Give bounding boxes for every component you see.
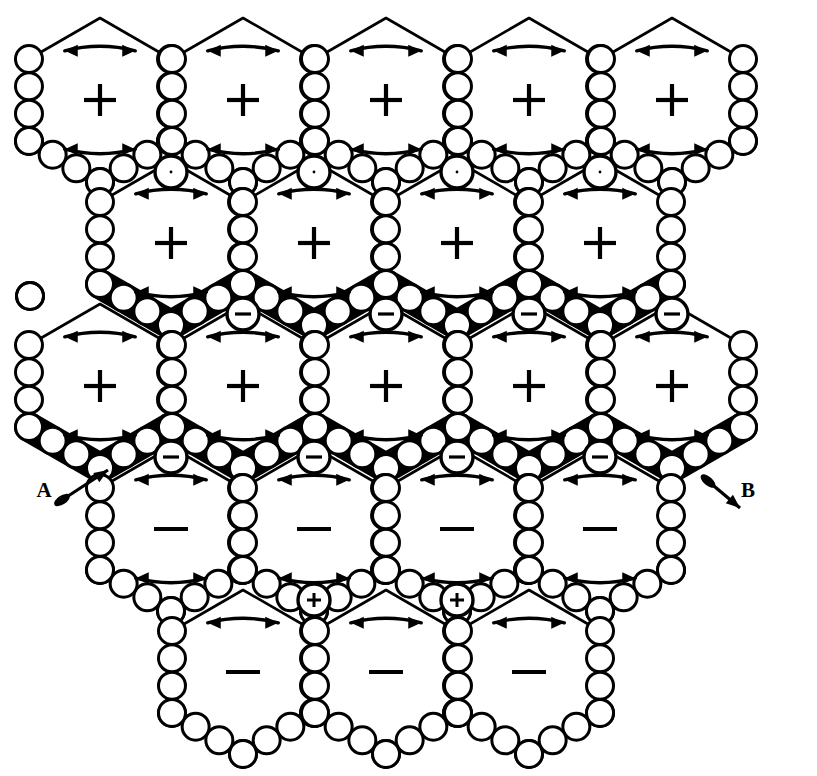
wall-circle — [587, 128, 614, 155]
wall-circle — [301, 332, 328, 359]
junction-node — [441, 584, 473, 616]
wall-circle — [15, 386, 42, 413]
wall-circle — [158, 128, 185, 155]
junction-node — [298, 441, 330, 473]
wall-circle — [587, 73, 614, 100]
wall-circle — [158, 73, 185, 100]
wall-circle — [658, 475, 685, 502]
wall-circle — [229, 216, 256, 243]
wall-circle — [372, 502, 399, 529]
wall-circle — [158, 414, 185, 441]
wall-circle — [444, 672, 471, 699]
wall-circle — [158, 100, 185, 127]
wall-circle — [372, 557, 399, 584]
wall-circle — [229, 557, 256, 584]
wall-circle — [158, 700, 185, 727]
callout-label-a: A — [36, 478, 52, 502]
wall-circle — [301, 414, 328, 441]
figure-canvas: AB — [0, 0, 817, 776]
wall-circle — [515, 216, 542, 243]
wall-circle — [86, 243, 113, 270]
wall-circle — [587, 46, 614, 73]
wall-circle — [444, 414, 471, 441]
wall-circle — [658, 502, 685, 529]
wall-circle — [372, 189, 399, 216]
background — [0, 0, 817, 776]
wall-circle — [658, 189, 685, 216]
wall-circle — [587, 386, 614, 413]
wall-circle — [658, 529, 685, 556]
wall-circle — [587, 359, 614, 386]
wall-circle — [229, 243, 256, 270]
wall-circle — [444, 386, 471, 413]
wall-circle — [587, 618, 614, 645]
wall-circle — [587, 414, 614, 441]
wall-circle — [86, 557, 113, 584]
wall-circle — [730, 359, 757, 386]
wall-circle — [444, 332, 471, 359]
wall-circle — [229, 271, 256, 298]
wall-circle — [587, 672, 614, 699]
wall-circle — [372, 475, 399, 502]
wall-circle — [158, 645, 185, 672]
wall-circle — [301, 128, 328, 155]
wall-circle — [86, 271, 113, 298]
wall-circle — [730, 46, 757, 73]
wall-circle — [301, 672, 328, 699]
junction-node — [298, 156, 330, 188]
wall-circle — [15, 46, 42, 73]
junction-node — [656, 298, 688, 330]
wall-circle — [301, 46, 328, 73]
wall-circle — [515, 189, 542, 216]
wall-circle — [301, 100, 328, 127]
junction-node — [227, 298, 259, 330]
wall-circle — [158, 618, 185, 645]
wall-circle — [301, 73, 328, 100]
wall-circle — [730, 100, 757, 127]
wall-circle — [372, 529, 399, 556]
wall-circle — [444, 700, 471, 727]
wall-circle — [372, 243, 399, 270]
wall-circle — [587, 100, 614, 127]
wall-circle — [444, 359, 471, 386]
wall-circle — [158, 672, 185, 699]
wall-circle — [158, 386, 185, 413]
wall-circle — [301, 645, 328, 672]
hexagonal-cell-diagram: AB — [0, 0, 817, 776]
junction-node — [155, 441, 187, 473]
wall-circle — [15, 73, 42, 100]
wall-circle — [158, 46, 185, 73]
wall-circle — [229, 475, 256, 502]
wall-circle — [15, 414, 42, 441]
wall-circle — [444, 46, 471, 73]
wall-circle — [301, 700, 328, 727]
wall-circle — [444, 73, 471, 100]
wall-circle — [301, 386, 328, 413]
wall-circle — [86, 502, 113, 529]
junction-node — [441, 156, 473, 188]
callout-label-b: B — [741, 478, 755, 502]
wall-circle — [515, 271, 542, 298]
wall-circle — [730, 73, 757, 100]
wall-circle — [86, 529, 113, 556]
wall-circle — [372, 271, 399, 298]
wall-circle — [587, 645, 614, 672]
junction-node — [441, 441, 473, 473]
wall-circle — [730, 332, 757, 359]
wall-circle — [515, 475, 542, 502]
wall-circle — [372, 216, 399, 243]
junction-node — [155, 156, 187, 188]
wall-circle — [444, 100, 471, 127]
wall-circle — [444, 645, 471, 672]
wall-circle — [229, 529, 256, 556]
junction-node — [298, 584, 330, 616]
wall-circle — [229, 502, 256, 529]
wall-circle — [15, 100, 42, 127]
junction-node — [513, 298, 545, 330]
wall-circle — [229, 189, 256, 216]
wall-circle — [444, 128, 471, 155]
wall-circle — [301, 359, 328, 386]
wall-circle — [15, 332, 42, 359]
wall-circle — [658, 243, 685, 270]
junction-node — [370, 298, 402, 330]
